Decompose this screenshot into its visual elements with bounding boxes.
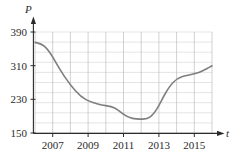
x-tick-label-2009: 2009 [77, 139, 100, 151]
y-tick-label-310: 310 [11, 60, 28, 72]
y-axis-label: P [24, 3, 32, 15]
x-tick-label-2011: 2011 [113, 139, 135, 151]
x-tick-label-2015: 2015 [183, 139, 206, 151]
y-tick-label-150: 150 [11, 127, 28, 139]
y-tick-label-230: 230 [11, 93, 28, 105]
x-axis-label: t [226, 127, 230, 139]
x-axis-arrowhead [217, 131, 225, 136]
x-tick-label-2013: 2013 [148, 139, 171, 151]
chart-screenshot: P t 390 310 230 150 2007 2009 2011 2013 … [0, 0, 234, 165]
y-axis-arrowhead [31, 17, 36, 25]
y-tick-label-390: 390 [11, 26, 28, 38]
x-tick-label-2007: 2007 [42, 139, 65, 151]
line-chart-figure: P t 390 310 230 150 2007 2009 2011 2013 … [0, 0, 234, 165]
chart-canvas: P t 390 310 230 150 2007 2009 2011 2013 … [0, 0, 234, 165]
